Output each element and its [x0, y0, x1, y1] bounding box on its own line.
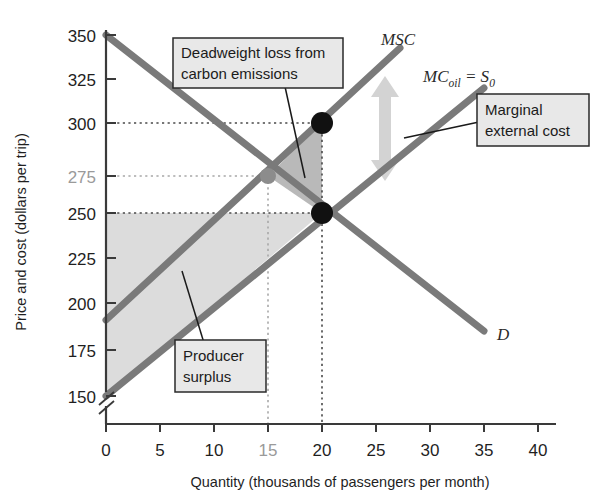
- marker-market-equilibrium: [311, 202, 333, 224]
- y-tick-250: 250: [68, 205, 96, 224]
- y-tick-325: 325: [68, 71, 96, 90]
- x-tick-10: 10: [205, 441, 224, 460]
- y-axis-title: Price and cost (dollars per trip): [13, 133, 29, 330]
- marker-efficient-quantity: [260, 168, 276, 184]
- producer-callout-line1: Producer: [183, 347, 244, 364]
- demand-curve-label: D: [496, 325, 510, 344]
- deadweight-loss-callout: Deadweight loss from carbon emissions: [173, 38, 343, 88]
- x-tick-25: 25: [367, 441, 386, 460]
- y-tick-350: 350: [68, 27, 96, 46]
- y-tick-175: 175: [68, 342, 96, 361]
- mc-oil-label-main: MC: [422, 67, 449, 86]
- marker-msc-at-market-quantity: [311, 112, 333, 134]
- y-tick-275: 275: [68, 168, 96, 187]
- producer-surplus-callout: Producer surplus: [175, 340, 266, 392]
- mc-oil-label-sub: oil: [449, 77, 461, 89]
- svg-text:MCoil = S0: MCoil = S0: [422, 67, 495, 89]
- x-tick-20: 20: [313, 441, 332, 460]
- x-tick-15: 15: [259, 441, 278, 460]
- y-tick-225: 225: [68, 250, 96, 269]
- deadweight-callout-line1: Deadweight loss from: [181, 44, 325, 61]
- producer-callout-line2: surplus: [183, 368, 231, 385]
- externality-diagram: 350 325 300 275 250 225 200 175 150 0 5 …: [0, 0, 591, 503]
- x-tick-5: 5: [155, 441, 164, 460]
- x-tick-30: 30: [421, 441, 440, 460]
- deadweight-callout-line2: carbon emissions: [181, 65, 298, 82]
- x-axis-ticks: [106, 424, 538, 432]
- marginal-callout-line2: external cost: [485, 122, 571, 139]
- y-tick-150: 150: [68, 388, 96, 407]
- y-tick-300: 300: [68, 115, 96, 134]
- mc-oil-label-eq: = S: [461, 67, 490, 86]
- x-tick-40: 40: [529, 441, 548, 460]
- y-tick-labels: 350 325 300 275 250 225 200 175 150: [68, 27, 96, 407]
- x-tick-labels: 0 5 10 15 20 25 30 35 40: [101, 441, 547, 460]
- marginal-callout-line1: Marginal: [485, 101, 543, 118]
- x-tick-0: 0: [101, 441, 110, 460]
- mc-oil-label-eq-sub: 0: [489, 77, 495, 89]
- y-tick-200: 200: [68, 295, 96, 314]
- msc-curve-label: MSC: [380, 30, 416, 49]
- x-tick-35: 35: [475, 441, 494, 460]
- x-axis-title: Quantity (thousands of passengers per mo…: [190, 474, 489, 490]
- mc-oil-curve-label: MCoil = S0: [422, 67, 495, 89]
- marginal-external-cost-callout: Marginal external cost: [477, 94, 589, 146]
